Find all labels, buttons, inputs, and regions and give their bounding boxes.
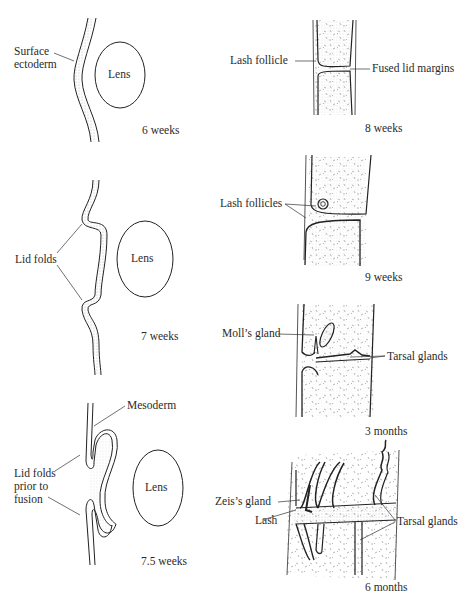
- label-lid-folds: Lid folds: [15, 253, 57, 266]
- panel-6-months: [262, 440, 400, 580]
- label-line: prior to: [14, 480, 56, 493]
- label-line: Surface: [14, 45, 57, 58]
- label-mesoderm: Mesoderm: [127, 399, 176, 412]
- label-surface-ectoderm: Surface ectoderm: [14, 45, 57, 71]
- caption-6-months: 6 months: [365, 581, 408, 593]
- panel-8-weeks: [295, 20, 370, 115]
- panel-7-weeks: [57, 180, 173, 375]
- panel-6-weeks: [54, 18, 145, 142]
- label-line: Lid folds: [14, 467, 56, 480]
- caption-6-weeks: 6 weeks: [142, 124, 179, 136]
- lens-label: Lens: [108, 68, 130, 80]
- label-lash: Lash: [255, 514, 277, 527]
- caption-9-weeks: 9 weeks: [365, 271, 402, 283]
- lens-label: Lens: [131, 252, 153, 264]
- label-line: ectoderm: [14, 58, 57, 71]
- lens-label: Lens: [145, 481, 167, 493]
- label-tarsal-glands: Tarsal glands: [397, 515, 458, 528]
- label-molls-gland: Moll’s gland: [222, 327, 280, 340]
- panel-3-months: [278, 304, 385, 417]
- label-lid-folds-prior-to-fusion: Lid folds prior to fusion: [14, 467, 56, 506]
- caption-7-5-weeks: 7.5 weeks: [141, 555, 187, 567]
- eyelid-development-diagram: [0, 0, 472, 603]
- panel-9-weeks: [285, 155, 371, 267]
- label-lash-follicle: Lash follicle: [230, 54, 288, 67]
- label-fused-lid-margins: Fused lid margins: [372, 62, 454, 75]
- caption-3-months: 3 months: [365, 425, 408, 437]
- label-lash-follicles: Lash follicles: [220, 197, 282, 210]
- label-line: fusion: [14, 493, 56, 506]
- caption-8-weeks: 8 weeks: [365, 122, 402, 134]
- label-tarsal-glands: Tarsal glands: [387, 350, 448, 363]
- caption-7-weeks: 7 weeks: [141, 330, 178, 342]
- label-zeiss-gland: Zeis’s gland: [215, 495, 271, 508]
